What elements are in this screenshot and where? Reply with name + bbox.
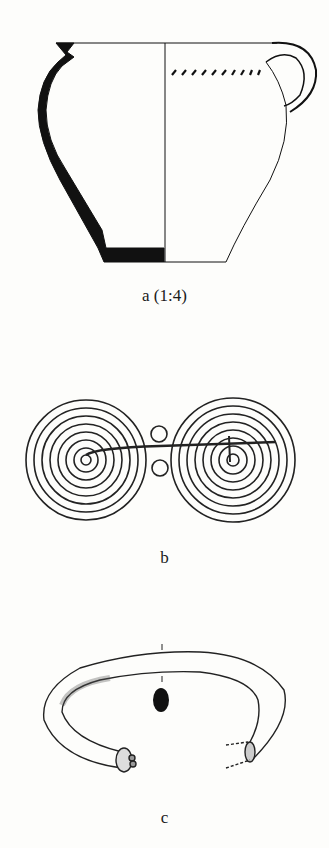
jug-section-profile	[38, 43, 164, 262]
left-spiral	[26, 400, 146, 520]
bracelet-figure	[44, 644, 286, 772]
jug-incised-decoration	[172, 70, 260, 75]
right-spiral	[171, 398, 295, 522]
bracelet-cross-section	[153, 688, 169, 712]
jug-drawing	[0, 0, 329, 848]
jug-figure	[38, 43, 316, 262]
center-loops	[151, 426, 168, 476]
fibula-figure	[26, 398, 295, 522]
figure-c-label: c	[0, 808, 329, 828]
figure-a-label: a (1:4)	[0, 286, 329, 306]
figure-b-label: b	[0, 548, 329, 568]
